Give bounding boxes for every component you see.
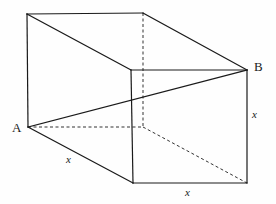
edge-top-left-slant [27, 14, 131, 70]
figure-canvas: A B x x x [0, 0, 276, 204]
vertex-label-a: A [12, 121, 21, 134]
edge-top-right-slant [143, 13, 247, 70]
edge-label-right-x: x [252, 109, 257, 120]
edge-bottom-left-slant [28, 127, 133, 183]
edge-back-left-vertical [27, 14, 28, 127]
vertex-label-b: B [254, 60, 263, 73]
prism-diagram [0, 0, 276, 204]
edge-space-diagonal-ab [28, 70, 247, 127]
edge-back-top [27, 13, 143, 14]
hidden-edge-bottom-diagonal [143, 127, 247, 183]
edge-label-left-x: x [66, 154, 71, 165]
visible-edges-group [27, 13, 247, 183]
edge-label-bottom-x: x [185, 187, 190, 198]
